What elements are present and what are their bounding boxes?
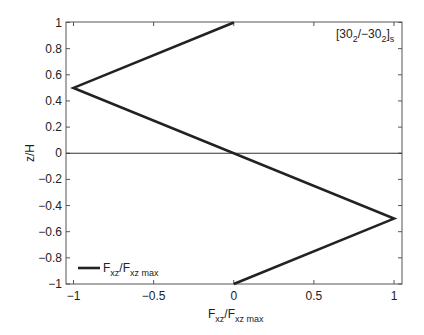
y-tick-labels: 10.80.60.40.20−0.2−0.4−0.6−0.8−1 (38, 16, 62, 292)
x-tick-labels: −1−0.500.51 (67, 289, 398, 303)
y-tick-label: 0.6 (45, 68, 62, 82)
x-tick-label: −1 (67, 289, 81, 303)
legend: Fxz/Fxz max (78, 261, 159, 278)
y-tick-label: 1 (55, 16, 62, 30)
stacking-annotation: [302/−302]s (336, 27, 395, 44)
y-tick-label: −0.6 (38, 225, 62, 239)
x-axis-label: Fxz/Fxz max (208, 307, 264, 324)
y-axis-label: z/H (23, 144, 37, 162)
y-tick-label: −0.2 (38, 172, 62, 186)
legend-label: Fxz/Fxz max (103, 261, 159, 278)
y-tick-label: 0.2 (45, 120, 62, 134)
y-tick-label: 0.8 (45, 42, 62, 56)
x-tick-label: 0.5 (306, 289, 323, 303)
y-tick-label: −1 (48, 277, 62, 291)
y-tick-label: −0.4 (38, 199, 62, 213)
y-tick-label: −0.8 (38, 251, 62, 265)
y-tick-label: 0.4 (45, 94, 62, 108)
x-tick-label: −0.5 (142, 289, 166, 303)
y-tick-label: 0 (55, 146, 62, 160)
chart: −1−0.500.51 10.80.60.40.20−0.2−0.4−0.6−0… (0, 0, 424, 335)
x-tick-label: 0 (230, 289, 237, 303)
x-tick-label: 1 (391, 289, 398, 303)
